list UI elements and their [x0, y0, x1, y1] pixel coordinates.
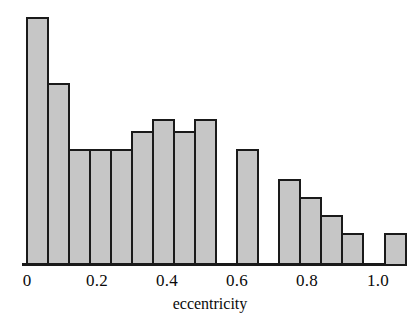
histogram-bar: [132, 132, 153, 265]
histogram-figure: 0 0.2 0.4 0.6 0.8 1.0 eccentricity: [0, 0, 415, 329]
x-tick-label-0.2: 0.2: [86, 272, 108, 289]
histogram-bar: [69, 150, 90, 264]
x-tick-label-0.4: 0.4: [156, 272, 178, 289]
histogram-bar: [48, 84, 69, 265]
histogram-bar: [153, 120, 174, 265]
histogram-bar: [237, 150, 258, 264]
histogram-bar: [321, 216, 342, 264]
histogram-bar: [27, 18, 48, 265]
histogram-bar: [111, 150, 132, 264]
histogram-bar: [90, 150, 111, 264]
histogram-bar: [279, 180, 300, 264]
histogram-bar: [385, 234, 406, 264]
bars-group: [27, 18, 406, 265]
x-tick-label-1.0: 1.0: [367, 272, 389, 289]
histogram-plot: [0, 0, 415, 329]
histogram-bar: [342, 234, 363, 264]
histogram-bar: [195, 120, 216, 265]
x-tick-label-0.6: 0.6: [226, 272, 248, 289]
x-tick-label-0.8: 0.8: [296, 272, 318, 289]
x-axis-title: eccentricity: [173, 296, 248, 312]
histogram-bar: [174, 132, 195, 265]
histogram-bar: [300, 198, 321, 264]
x-tick-label-0: 0: [23, 272, 32, 289]
